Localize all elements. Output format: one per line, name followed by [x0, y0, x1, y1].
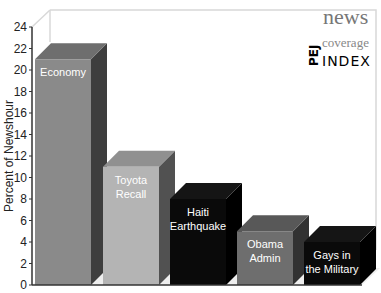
- bar-label: Earthquake: [170, 220, 226, 232]
- y-tick-label: 22: [14, 42, 28, 56]
- bar-economy: Economy: [35, 43, 107, 285]
- y-tick-label: 20: [14, 63, 28, 77]
- y-axis-label: Percent of Newshour: [2, 100, 16, 212]
- y-ticks: 024681012141618202224: [14, 20, 32, 292]
- bar-gays-in-the-military: Gays inthe Military: [304, 226, 376, 285]
- bar-label: the Military: [305, 263, 359, 275]
- y-tick-label: 18: [14, 85, 28, 99]
- bars-group: EconomyToyotaRecallHaitiEarthquakeObamaA…: [35, 43, 376, 285]
- bar-label: Obama: [247, 238, 284, 250]
- svg-text:PEJ: PEJ: [307, 45, 321, 66]
- chart-depth-edge: [32, 10, 50, 27]
- y-tick-label: 0: [20, 278, 27, 292]
- svg-text:coverage: coverage: [322, 35, 369, 50]
- svg-text:news: news: [323, 4, 368, 29]
- y-tick-label: 2: [20, 257, 27, 271]
- bar-label: Economy: [40, 66, 86, 78]
- pej-logo: news coverage INDEX PEJ: [307, 4, 371, 69]
- bar-toyota-recall: ToyotaRecall: [103, 151, 175, 285]
- bar-obama-admin: ObamaAdmin: [237, 215, 309, 285]
- bar-label: Recall: [116, 188, 147, 200]
- y-tick-label: 24: [14, 20, 28, 34]
- y-tick-label: 6: [20, 214, 27, 228]
- y-tick-label: 8: [20, 192, 27, 206]
- bar-label: Toyota: [115, 174, 148, 186]
- svg-text:INDEX: INDEX: [322, 53, 371, 69]
- bar-haiti-earthquake: HaitiEarthquake: [170, 183, 242, 285]
- bar-label: Haiti: [187, 206, 209, 218]
- bar-label: Admin: [249, 252, 280, 264]
- y-tick-label: 4: [20, 235, 27, 249]
- bar-label: Gays in: [313, 249, 350, 261]
- bar-chart: EconomyToyotaRecallHaitiEarthquakeObamaA…: [0, 0, 381, 293]
